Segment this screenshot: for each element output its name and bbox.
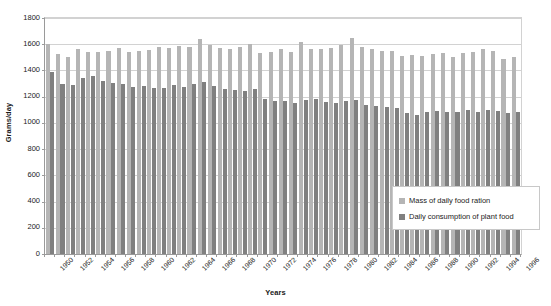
bar-plant-food xyxy=(81,78,85,254)
bar-group xyxy=(167,18,176,254)
bar-food-ration xyxy=(258,53,262,254)
bar-food-ration xyxy=(329,48,333,254)
bar-food-ration xyxy=(117,48,121,254)
x-axis-tick-label: 1990 xyxy=(464,256,481,273)
bar-plant-food xyxy=(172,85,176,254)
legend-entry: Daily consumption of plant food xyxy=(399,212,535,221)
x-axis-tick-label: 1984 xyxy=(403,256,420,273)
x-axis-tick-label: 1964 xyxy=(200,256,217,273)
x-axis-tick-label: 1980 xyxy=(362,256,379,273)
x-axis-tick-label: 1982 xyxy=(383,256,400,273)
bar-plant-food xyxy=(415,115,419,254)
x-axis-tick-label: 1978 xyxy=(342,256,359,273)
bar-plant-food xyxy=(466,110,470,254)
bar-plant-food xyxy=(101,81,105,254)
bar-plant-food xyxy=(435,111,439,254)
x-axis-tick-label: 1962 xyxy=(180,256,197,273)
x-axis-tick-label: 1988 xyxy=(443,256,460,273)
bar-group xyxy=(66,18,75,254)
bar-food-ration xyxy=(279,49,283,254)
bar-food-ration xyxy=(157,47,161,254)
bar-food-ration xyxy=(228,49,232,254)
bar-chart: Grams/day 020040060080010001200140016001… xyxy=(0,0,551,306)
y-axis-tick-label: 1200 xyxy=(14,91,40,100)
bar-group xyxy=(299,18,308,254)
bar-food-ration xyxy=(127,52,131,254)
bar-group xyxy=(319,18,328,254)
bar-plant-food xyxy=(91,76,95,254)
y-axis-tick-labels: 020040060080010001200140016001800 xyxy=(14,12,40,258)
bar-plant-food xyxy=(304,100,308,254)
bar-group xyxy=(198,18,207,254)
bar-food-ration xyxy=(248,44,252,254)
legend-swatch-icon xyxy=(399,214,405,220)
bar-plant-food xyxy=(162,88,166,254)
bar-plant-food xyxy=(233,90,237,254)
legend-swatch-icon xyxy=(399,198,405,204)
legend-label: Daily consumption of plant food xyxy=(409,212,514,221)
bar-plant-food xyxy=(121,84,125,254)
bar-group xyxy=(329,18,338,254)
bar-plant-food xyxy=(263,99,267,254)
x-axis-tick-label: 1974 xyxy=(302,256,319,273)
bar-group xyxy=(269,18,278,254)
bar-plant-food xyxy=(273,101,277,254)
y-axis-tick-label: 1600 xyxy=(14,39,40,48)
x-axis-tick-label: 1970 xyxy=(261,256,278,273)
x-axis-tick-label: 1992 xyxy=(484,256,501,273)
bar-plant-food xyxy=(395,108,399,254)
bar-plant-food xyxy=(243,91,247,254)
y-axis-tick-label: 200 xyxy=(14,222,40,231)
bar-group xyxy=(339,18,348,254)
legend-label: Mass of daily food ration xyxy=(409,196,490,205)
x-axis-tick-label: 1960 xyxy=(160,256,177,273)
y-axis-tick-label: 1000 xyxy=(14,117,40,126)
y-axis-tick-label: 1400 xyxy=(14,65,40,74)
bar-plant-food xyxy=(364,105,368,254)
bar-group xyxy=(56,18,65,254)
bar-plant-food xyxy=(445,112,449,254)
bar-plant-food xyxy=(152,88,156,255)
bar-group xyxy=(370,18,379,254)
bar-group xyxy=(46,18,55,254)
bar-plant-food xyxy=(425,112,429,254)
bar-group xyxy=(228,18,237,254)
bar-food-ration xyxy=(339,45,343,254)
bar-plant-food xyxy=(405,113,409,254)
bar-food-ration xyxy=(106,51,110,254)
bar-group xyxy=(96,18,105,254)
bar-plant-food xyxy=(455,112,459,254)
bar-food-ration xyxy=(218,48,222,254)
x-axis-tick-labels: 1950195219541956195819601962196419661968… xyxy=(0,256,551,288)
bar-group xyxy=(187,18,196,254)
bar-food-ration xyxy=(187,47,191,254)
bar-plant-food xyxy=(182,87,186,254)
y-axis-tick-label: 600 xyxy=(14,170,40,179)
bar-group xyxy=(127,18,136,254)
bar-plant-food xyxy=(354,100,358,254)
bar-group xyxy=(208,18,217,254)
x-axis-tick-label: 1956 xyxy=(119,256,136,273)
bar-plant-food xyxy=(374,106,378,254)
bar-plant-food xyxy=(253,89,257,254)
bar-plant-food xyxy=(516,112,520,254)
bar-group xyxy=(106,18,115,254)
bar-plant-food xyxy=(223,89,227,254)
y-axis-tick-label: 400 xyxy=(14,196,40,205)
x-axis-tick-label: 1966 xyxy=(221,256,238,273)
bar-food-ration xyxy=(147,50,151,254)
bar-group xyxy=(218,18,227,254)
bar-plant-food xyxy=(283,101,287,254)
bar-plant-food xyxy=(212,86,216,254)
bar-plant-food xyxy=(385,107,389,255)
x-axis-tick-label: 1986 xyxy=(423,256,440,273)
bar-group xyxy=(360,18,369,254)
bar-plant-food xyxy=(192,84,196,254)
bar-food-ration xyxy=(198,39,202,254)
bar-plant-food xyxy=(202,82,206,254)
bar-group xyxy=(380,18,389,254)
bar-plant-food xyxy=(506,113,510,254)
x-axis-tick-label: 1950 xyxy=(59,256,76,273)
bar-plant-food xyxy=(496,111,500,254)
bar-group xyxy=(147,18,156,254)
